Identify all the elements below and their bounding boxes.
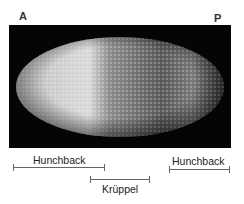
hunchback-posterior-domain-bar <box>169 169 230 170</box>
hunchback-anterior-domain-bar <box>13 167 105 168</box>
hunchback-posterior-label: Hunchback <box>172 155 225 167</box>
embryo-image <box>9 25 231 148</box>
kruppel-label: Krüppel <box>102 183 138 195</box>
kruppel-domain-bar <box>90 179 150 180</box>
hunchback-anterior-label: Hunchback <box>33 154 86 166</box>
posterior-label: P <box>214 12 221 24</box>
anterior-label: A <box>19 10 27 22</box>
